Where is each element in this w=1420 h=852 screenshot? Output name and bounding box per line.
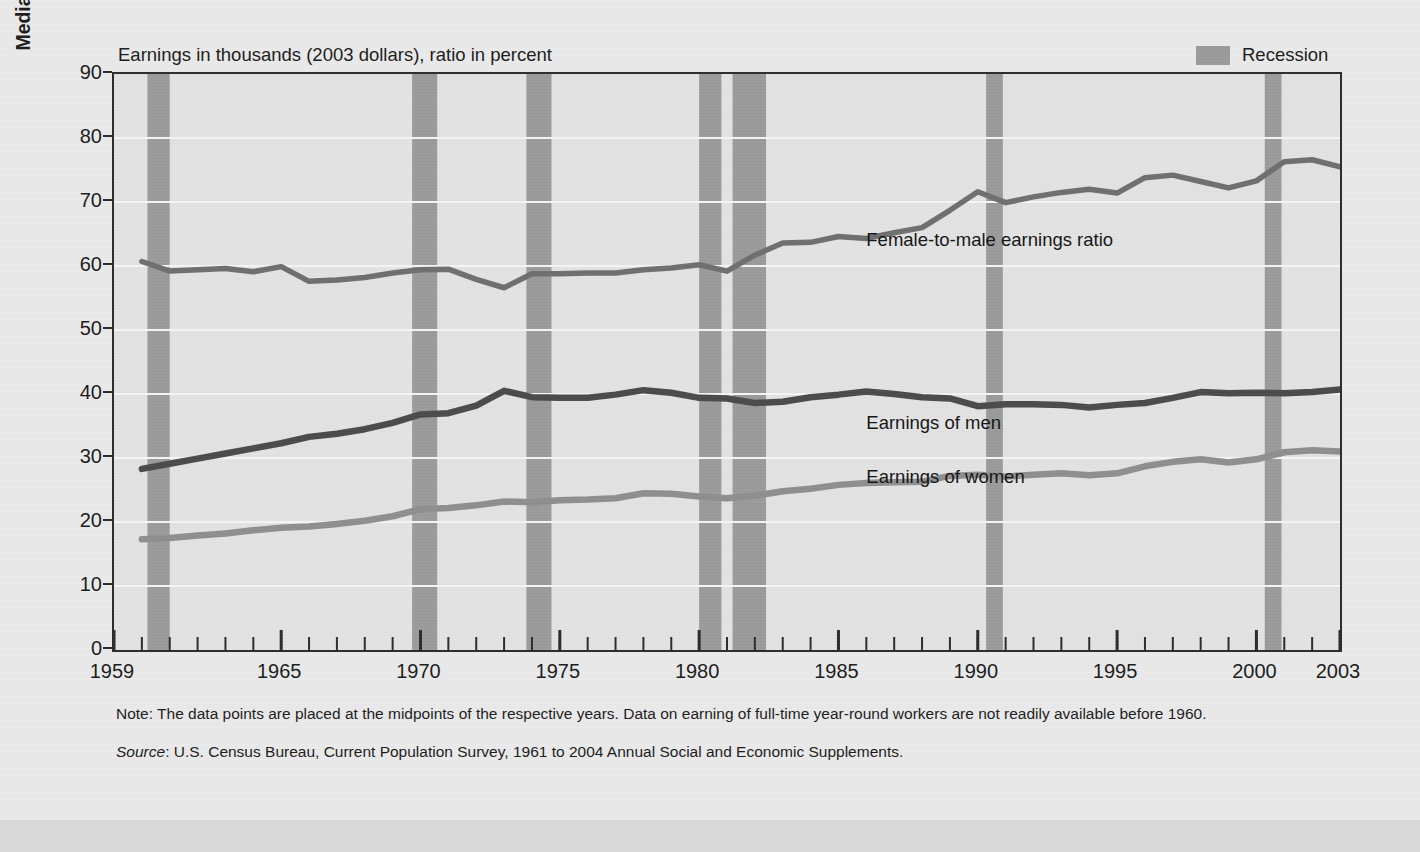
y-tick-label: 80: [14, 125, 112, 148]
plot-caption: Earnings in thousands (2003 dollars), ra…: [118, 44, 552, 66]
figure-notes: Note: The data points are placed at the …: [116, 703, 1361, 780]
x-tick-label: 1980: [675, 660, 720, 683]
y-tick-label: 90: [14, 61, 112, 84]
y-tick-mark: [103, 71, 112, 73]
recession-band: [147, 74, 169, 650]
x-tick-label: 1970: [396, 660, 441, 683]
recession-band: [733, 74, 766, 650]
x-tick-label: 1990: [954, 660, 999, 683]
y-tick-mark: [103, 519, 112, 521]
y-tick-mark: [103, 455, 112, 457]
y-tick-label: 30: [14, 445, 112, 468]
x-tick-label: 1959: [90, 660, 135, 683]
x-tick-label: 1965: [257, 660, 302, 683]
note-text: Note: The data points are placed at the …: [116, 703, 1361, 725]
y-tick-mark: [103, 391, 112, 393]
x-tick-label: 2003: [1316, 660, 1361, 683]
legend-recession: Recession: [1196, 44, 1328, 66]
recession-band: [986, 74, 1003, 650]
recession-band: [526, 74, 551, 650]
y-tick-label: 10: [14, 573, 112, 596]
series-annotation: Female-to-male earnings ratio: [866, 229, 1113, 251]
plot-area: Female-to-male earnings ratioEarnings of…: [112, 72, 1342, 652]
y-tick-label: 20: [14, 509, 112, 532]
y-tick-label: 50: [14, 317, 112, 340]
plot-svg: [114, 74, 1340, 650]
source-body: : U.S. Census Bureau, Current Population…: [165, 743, 903, 760]
y-tick-mark: [103, 199, 112, 201]
recession-band: [1265, 74, 1282, 650]
source-label: Source: [116, 743, 165, 760]
series-annotation: Earnings of women: [866, 466, 1024, 488]
y-tick-mark: [103, 583, 112, 585]
x-tick-label: 1975: [536, 660, 581, 683]
x-tick-label: 1985: [814, 660, 859, 683]
y-tick-mark: [103, 327, 112, 329]
source-line: Source: U.S. Census Bureau, Current Popu…: [116, 741, 1361, 763]
legend-recession-label: Recession: [1242, 44, 1328, 66]
page-bottom-strip: [0, 820, 1420, 852]
y-axis-tick-labels: 0102030405060708090: [0, 72, 112, 648]
y-tick-mark: [103, 263, 112, 265]
y-tick-label: 60: [14, 253, 112, 276]
recession-swatch-icon: [1196, 46, 1230, 65]
y-tick-label: 0: [14, 637, 112, 660]
note-body: Note: The data points are placed at the …: [116, 705, 1207, 722]
y-tick-label: 40: [14, 381, 112, 404]
x-axis-tick-labels: 1959196519701975198019851990199520002003: [112, 660, 1338, 690]
y-tick-mark: [103, 135, 112, 137]
x-tick-label: 1995: [1093, 660, 1138, 683]
recession-band: [412, 74, 437, 650]
figure-container: Earnings in thousands (2003 dollars), ra…: [0, 0, 1420, 852]
x-tick-label: 2000: [1232, 660, 1277, 683]
series-annotation: Earnings of men: [866, 412, 1001, 434]
recession-band: [699, 74, 721, 650]
y-tick-mark: [103, 647, 112, 649]
y-tick-label: 70: [14, 189, 112, 212]
